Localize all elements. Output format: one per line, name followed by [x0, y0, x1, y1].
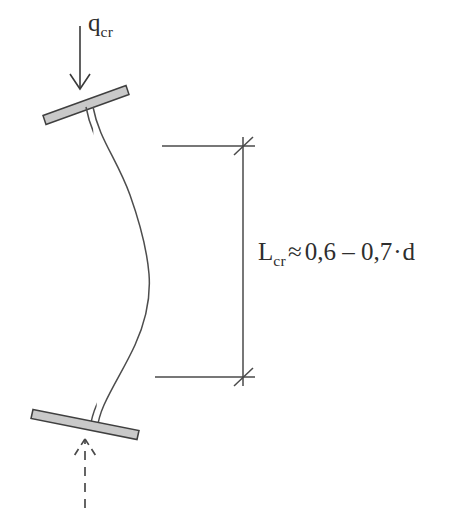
approx-sign: ≈ [288, 238, 302, 265]
length-subscript: cr [273, 252, 286, 269]
reaction-arrowhead-left [74, 439, 85, 456]
load-symbol: q [88, 9, 101, 36]
reaction-arrowhead-right [85, 439, 96, 456]
bottom-plate-body [31, 410, 139, 440]
reaction-arrow-group [74, 439, 96, 508]
load-subscript: cr [101, 23, 114, 40]
dimension-line-group [155, 137, 255, 386]
bottom-bearing-plate [31, 410, 139, 440]
length-symbol: L [258, 238, 273, 265]
length-value-low: 0,6 [305, 238, 336, 265]
length-value-high: 0,7 [361, 238, 392, 265]
load-arrow-group [70, 26, 90, 89]
buckled-column [86, 107, 149, 430]
column-right-edge [93, 107, 149, 430]
buckling-diagram: qcr Lcr≈0,6 – 0,7·d [0, 0, 458, 519]
range-dash: – [342, 238, 355, 265]
load-label: qcr [88, 10, 113, 40]
top-bearing-plate [43, 86, 129, 125]
top-plate-body [43, 86, 129, 125]
length-variable: d [403, 238, 416, 265]
buckling-length-label: Lcr≈0,6 – 0,7·d [258, 239, 415, 269]
multiply-sign: · [393, 238, 401, 265]
